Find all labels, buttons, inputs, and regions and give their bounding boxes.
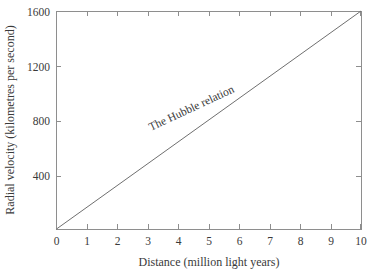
x-axis-ticks bbox=[57, 224, 361, 229]
y-tick-label-400: 400 bbox=[33, 170, 51, 182]
y-axis-ticks bbox=[56, 12, 61, 177]
y-tick-label-1600: 1600 bbox=[27, 6, 50, 18]
data-series-hubble-relation bbox=[57, 11, 362, 229]
x-tick-label-0: 0 bbox=[54, 235, 60, 247]
x-axis-tick-labels: 0 1 2 3 4 5 6 7 8 9 10 bbox=[54, 235, 367, 247]
hubble-relation-chart: The Hubble relation 400 800 1200 1600 0 … bbox=[0, 0, 384, 275]
chart-canvas: The Hubble relation 400 800 1200 1600 0 … bbox=[0, 0, 384, 275]
x-tick-label-3: 3 bbox=[145, 235, 151, 247]
hubble-relation-annotation: The Hubble relation bbox=[147, 83, 236, 133]
x-tick-label-8: 8 bbox=[298, 235, 304, 247]
y-axis-ticks-right bbox=[356, 12, 361, 177]
x-tick-label-10: 10 bbox=[355, 235, 367, 247]
y-axis-title: Radial velocity (kilometres per second) bbox=[3, 25, 17, 214]
x-tick-label-2: 2 bbox=[115, 235, 121, 247]
y-tick-label-1200: 1200 bbox=[27, 61, 50, 73]
x-tick-label-9: 9 bbox=[328, 235, 334, 247]
y-axis-tick-labels: 400 800 1200 1600 bbox=[27, 6, 50, 182]
x-tick-label-5: 5 bbox=[206, 235, 212, 247]
x-axis-ticks-top bbox=[57, 11, 361, 16]
x-tick-label-1: 1 bbox=[84, 235, 90, 247]
hubble-relation-line bbox=[57, 11, 362, 229]
x-axis-title: Distance (million light years) bbox=[139, 255, 280, 269]
annotation-label: The Hubble relation bbox=[147, 83, 236, 133]
x-tick-label-7: 7 bbox=[267, 235, 273, 247]
x-tick-label-4: 4 bbox=[176, 235, 182, 247]
y-tick-label-800: 800 bbox=[33, 115, 51, 127]
x-tick-label-6: 6 bbox=[237, 235, 243, 247]
